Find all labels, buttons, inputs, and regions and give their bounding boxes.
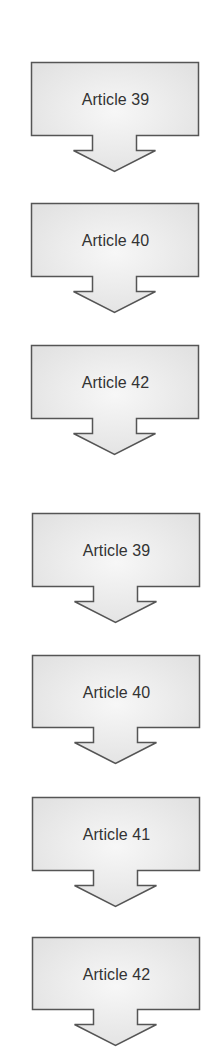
step-label: Article 39 [31,62,200,137]
step-label: Article 42 [31,345,200,420]
step-label: Article 42 [32,937,201,1012]
step-article-40: Article 40 [32,655,204,767]
step-label: Article 39 [32,513,201,588]
step-article-42: Article 42 [31,345,203,457]
step-article-39: Article 39 [32,513,204,625]
step-article-40: Article 40 [31,203,203,315]
step-label: Article 41 [32,797,201,872]
step-article-39: Article 39 [31,62,203,174]
step-article-42: Article 42 [32,937,204,1049]
step-label: Article 40 [32,655,201,730]
step-label: Article 40 [31,203,200,278]
step-article-41: Article 41 [32,797,204,909]
